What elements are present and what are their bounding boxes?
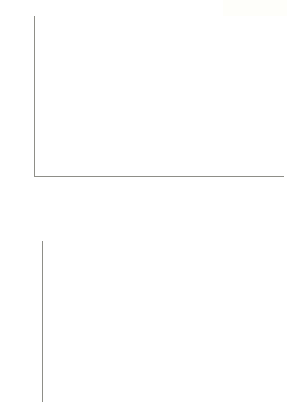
- bar-chart-top: [0, 0, 289, 205]
- bar-group-top: [34, 16, 284, 176]
- bar-group-bottom: [42, 241, 284, 401]
- plot-area-top: [34, 16, 284, 177]
- plot-area-bottom: [42, 241, 284, 402]
- figure-container: [0, 0, 289, 402]
- scan-artifact: [223, 0, 287, 16]
- bar-chart-bottom: [0, 235, 289, 402]
- x-axis-labels-top: [34, 177, 284, 211]
